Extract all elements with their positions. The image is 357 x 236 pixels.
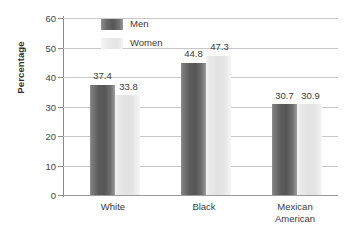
bar-women-mexican-american [297, 104, 322, 195]
bar-women-white [115, 95, 140, 195]
plot-area: 37.4 33.8 44.8 47.3 30.7 30.9 Men Women [63, 18, 338, 195]
legend: Men Women [101, 17, 163, 50]
y-tick-label-60: 60 [34, 14, 56, 24]
legend-swatch-men-icon [101, 19, 123, 30]
bar-men-mexican-american [272, 104, 297, 195]
bar-men-white [90, 85, 115, 195]
bar-value-men-white: 37.4 [88, 71, 117, 81]
x-axis-line [63, 195, 338, 196]
y-tick-label-50: 50 [34, 44, 56, 54]
x-tick-label-white: White [78, 201, 148, 213]
y-tick-label-0: 0 [34, 191, 56, 201]
bar-women-black [206, 56, 231, 196]
legend-item-women[interactable]: Women [101, 36, 163, 50]
y-tick-label-30: 30 [34, 103, 56, 113]
bar-value-women-mexican-american: 30.9 [296, 91, 325, 101]
x-tick-label-black: Black [169, 201, 239, 213]
y-axis-tick-labels: 60 50 40 30 20 10 0 [30, 18, 56, 195]
bar-value-women-black: 47.3 [205, 42, 234, 52]
bar-value-women-white: 33.8 [114, 82, 143, 92]
bar-chart: Percentage 60 50 40 30 20 10 0 37.4 33.8 [0, 0, 357, 236]
legend-item-men[interactable]: Men [101, 17, 163, 31]
x-tick-label-mexican-american: Mexican American [260, 201, 330, 224]
y-tick-label-10: 10 [34, 162, 56, 172]
legend-label-men: Men [130, 19, 148, 29]
bar-value-men-mexican-american: 30.7 [270, 91, 299, 101]
legend-swatch-women-icon [101, 38, 123, 49]
bar-men-black [181, 63, 206, 195]
y-axis-title: Percentage [15, 20, 26, 116]
y-tick-label-20: 20 [34, 132, 56, 142]
legend-label-women: Women [130, 38, 163, 48]
y-tick-label-40: 40 [34, 73, 56, 83]
bar-value-men-black: 44.8 [179, 49, 208, 59]
